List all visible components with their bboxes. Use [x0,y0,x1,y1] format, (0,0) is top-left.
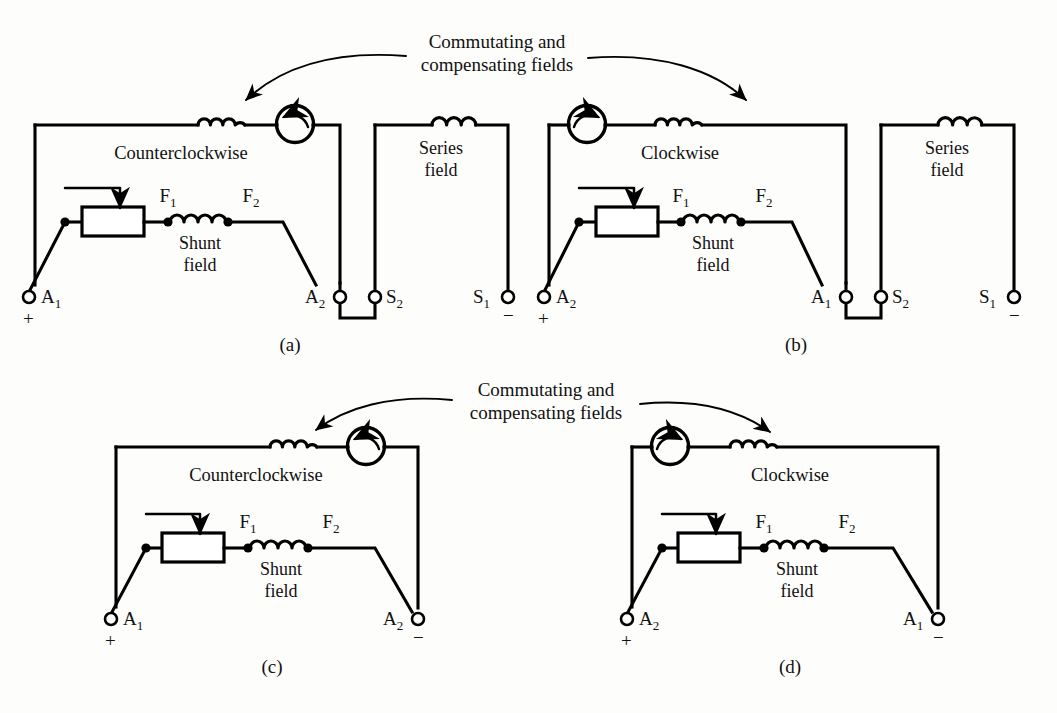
callout-bottom-text: Commutating and compensating fields [470,378,623,424]
panel-a-s1-letter: S [473,286,484,307]
panel-a-shunt-to-a2 [230,222,316,285]
panel-a-caption: (a) [279,334,300,356]
callout-bottom-line2: compensating fields [470,401,623,424]
panel-b-label-s2: S2 [892,286,909,312]
callout-bottom-leader-left [316,399,452,430]
panel-b-terminal-a2 [538,291,550,303]
panel-c-label-a2: A2 [383,608,403,634]
panel-a-a2-letter: A [305,286,319,307]
panel-b-commutating-coil [655,119,702,125]
panel-d-rheostat-wiper [662,514,716,534]
panel-d-shunt-line1: Shunt [776,558,818,580]
panel-a-a2-s2-jumper [340,301,375,318]
panel-a-a2-sub: 2 [319,296,326,311]
circuit-canvas [0,0,1057,713]
panel-c-shunt-field-label: Shunt field [260,558,302,602]
callout-bottom-leader-right [640,403,770,432]
panel-b-f2-sub: 2 [766,195,773,210]
panel-d-label-a2: A2 [639,608,659,634]
panel-b-caption: (b) [785,334,807,356]
callout-top-leader-right [588,57,746,100]
panel-b-a2-sub: 2 [570,296,577,311]
panel-a-label-a1: A1 [41,286,61,312]
panel-a-f1-label: F1 [159,185,176,211]
panel-d-shunt-to-a1 [826,548,932,612]
panel-a-commutating-coil [198,119,245,125]
panel-a-terminal-a2 [334,291,346,303]
panel-c-rheostat [162,533,224,562]
panel-a-rheostat-wiper [65,188,120,208]
panel-a-rheostat [82,207,144,236]
panel-a-rotation-label: Counterclockwise [114,143,248,164]
panel-c-armature-loop-3 [384,447,418,608]
panel-b-f1-letter: F [672,185,683,206]
panel-c-shunt-line2: field [260,580,302,602]
panel-a-series-line1: Series [419,137,463,159]
panel-c-shunt-field-coil [250,541,306,548]
panel-b-a1-s2-jumper [846,301,881,318]
panel-a-shunt-field-coil [170,215,226,222]
panel-a-shunt-line1: Shunt [179,232,221,254]
panel-d-shunt-line2: field [776,580,818,602]
panel-a-label-a2: A2 [305,286,325,312]
panel-b-shunt-line2: field [692,254,734,276]
panel-d-commutating-coil [730,441,777,447]
panel-a-shunt-field-label: Shunt field [179,232,221,276]
panel-d-polarity-minus: − [933,627,944,649]
panel-b-a1-sub: 1 [825,296,832,311]
panel-a-shunt-line2: field [179,254,221,276]
panel-a-label-s2: S2 [386,286,403,312]
panel-b-s1-letter: S [979,286,990,307]
panel-b-rotation-label: Clockwise [641,143,719,164]
panel-c-a1-letter: A [123,608,137,629]
panel-b-shunt-to-a1 [743,222,822,285]
panel-c-shunt-line1: Shunt [260,558,302,580]
panel-d-f1-label: F1 [755,511,772,537]
panel-b-a1-letter: A [811,286,825,307]
panel-b-a2-letter: A [556,286,570,307]
panel-b-terminal-a1 [840,291,852,303]
panel-a-polarity-plus: + [23,308,34,330]
panel-a-terminal-a1 [23,291,35,303]
panel-d-caption: (d) [779,656,801,678]
panel-d-f2-letter: F [838,511,849,532]
panel-b-s2-letter: S [892,286,903,307]
panel-d-f1-letter: F [755,511,766,532]
panel-a-a1-sub: 1 [55,296,62,311]
panel-b-shunt-field-coil [683,215,739,222]
panel-c-caption: (c) [261,656,282,678]
panel-a-s1-sub: 1 [484,296,491,311]
panel-b-terminal-s1 [1008,291,1020,303]
panel-a-polarity-minus: − [503,305,514,327]
callout-top-text: Commutating and compensating fields [421,30,574,76]
panel-d-rotation-label: Clockwise [751,465,829,486]
panel-c-f2-label: F2 [322,511,339,537]
panel-b-series-right [982,125,1014,293]
panel-c-shunt-to-a2 [310,548,412,612]
panel-c-f1-label: F1 [239,511,256,537]
panel-b-s2-sub: 2 [903,296,910,311]
panel-d-a2-letter: A [639,608,653,629]
panel-b-polarity-minus: − [1009,305,1020,327]
panel-c-a1-sub: 1 [137,618,144,633]
panel-b-polarity-plus: + [538,308,549,330]
panel-d-f2-label: F2 [838,511,855,537]
panel-a-f2-label: F2 [242,185,259,211]
panel-b-series-field-label: Series field [925,137,969,181]
panel-d-terminal-a1 [932,613,944,625]
panel-a-f1-letter: F [159,185,170,206]
panel-a-series-field-coil [432,118,476,125]
panel-c-polarity-minus: − [413,627,424,649]
panel-d-shunt-field-coil [766,541,822,548]
panel-a-f2-sub: 2 [253,195,260,210]
panel-c-a2-letter: A [383,608,397,629]
callout-bottom-line1: Commutating and [470,378,623,401]
panel-a-s2-sub: 2 [397,296,404,311]
panel-b-rheostat-wiper [579,188,634,208]
panel-d-rotation-arrow-cw [657,437,681,449]
panel-b-series-line1: Series [925,137,969,159]
panel-b-label-s1: S1 [979,286,996,312]
panel-d-shunt-field-label: Shunt field [776,558,818,602]
panel-d-a1-letter: A [903,608,917,629]
panel-a-s2-letter: S [386,286,397,307]
